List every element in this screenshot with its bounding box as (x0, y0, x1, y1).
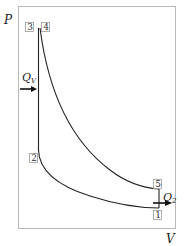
y-axis-label: P (3, 13, 13, 27)
point-2-label: 2 (31, 153, 37, 163)
heat-in-arrow: QV (20, 71, 37, 92)
point-3: 3 (26, 22, 34, 32)
point-4: 4 (42, 22, 50, 32)
cycle-path (39, 28, 160, 208)
point-1: 1 (154, 210, 162, 220)
expansion-curve (40, 28, 159, 189)
point-2: 2 (30, 153, 38, 163)
point-5: 5 (154, 179, 162, 189)
pv-diagram: P V 3 4 2 5 1 QV Q2 (0, 0, 187, 246)
compression-curve (39, 150, 160, 208)
point-5-label: 5 (155, 179, 161, 189)
x-axis-label: V (166, 232, 176, 246)
heat-in-label: QV (22, 71, 37, 85)
point-4-label: 4 (43, 22, 49, 32)
heat-out-arrow: Q2 (153, 191, 177, 206)
point-3-label: 3 (27, 22, 33, 32)
point-1-label: 1 (155, 210, 161, 220)
